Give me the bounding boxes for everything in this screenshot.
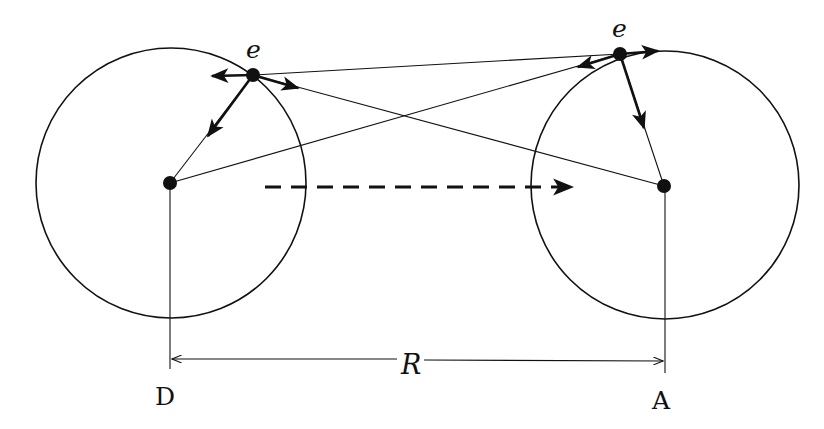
electron-left <box>246 68 260 82</box>
nucleus-right-label: A <box>651 386 671 415</box>
force-arrow-left-e-to-nucleus <box>208 75 253 136</box>
force-arrow-right-e-to-nucleus <box>620 54 644 128</box>
electron-right <box>613 47 627 61</box>
interatomic-interaction-diagram: e e R D A <box>0 0 824 429</box>
distance-arrow-right-segment <box>424 360 663 361</box>
line-eleft-to-eright <box>253 54 620 75</box>
line-eright-to-nucleus-left <box>170 54 620 183</box>
electron-right-label: e <box>612 14 627 43</box>
nucleus-left-label: D <box>155 382 175 411</box>
distance-label: R <box>400 349 421 380</box>
electron-left-label: e <box>246 35 261 64</box>
line-eleft-to-nucleus-right <box>253 75 664 186</box>
nucleus-right <box>657 179 671 193</box>
